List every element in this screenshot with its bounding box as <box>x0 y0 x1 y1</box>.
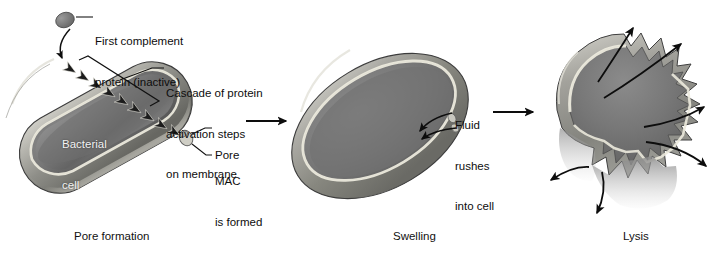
label-fluid-rushes-into-cell: Fluid rushes into cell <box>455 92 494 241</box>
caption-lysis: Lysis <box>623 230 649 242</box>
caption-pore-formation: Pore formation <box>74 230 149 242</box>
arrow-protein-to-membrane <box>60 29 70 58</box>
label-bacterial-cell: Bacterial cell <box>62 111 107 219</box>
bacterial-cell-lysed <box>556 33 700 209</box>
complement-mac-lysis-figure: First complement protein (inactive) Casc… <box>0 0 714 256</box>
label-mac-is-formed: MAC is formed <box>215 148 262 256</box>
complement-protein-blob <box>54 10 77 31</box>
caption-swelling: Swelling <box>393 230 436 242</box>
